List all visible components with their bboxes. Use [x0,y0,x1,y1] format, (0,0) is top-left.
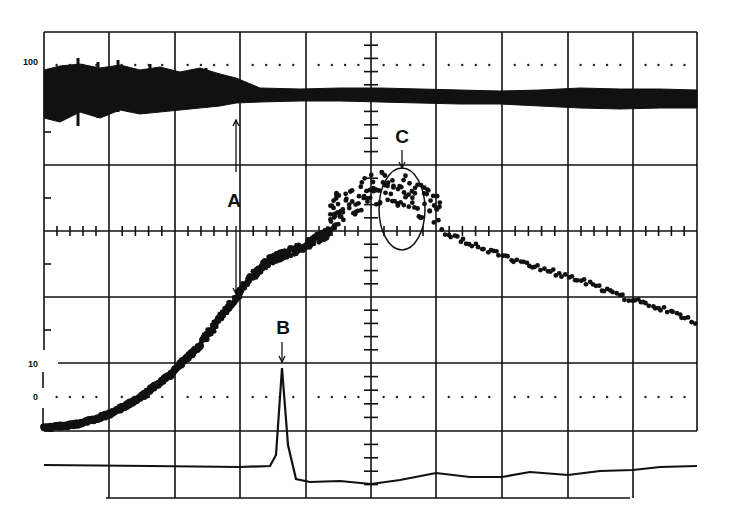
main-curve [40,170,698,432]
oscilloscope-chart: 100100 ABC [0,0,729,528]
annotation-c-label: C [395,126,409,147]
axis-label: 100 [23,57,38,67]
annotation-a-label: A [227,190,241,211]
axis-label: 10 [28,359,38,369]
annotation-b-label: B [276,317,290,338]
axis-label: 0 [33,392,38,402]
axis-labels: 100100 [23,57,38,402]
